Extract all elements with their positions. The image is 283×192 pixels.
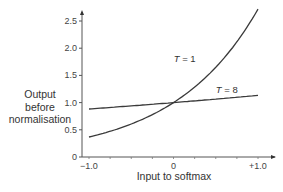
x-axis-label: Input to softmax xyxy=(137,170,212,182)
y-tick-label: 2.5 xyxy=(64,16,77,26)
y-tick-label: 0.5 xyxy=(64,125,77,135)
x-tick-label: −1.0 xyxy=(80,161,98,171)
y-tick-label: 1.5 xyxy=(64,70,77,80)
series-label-t8: T = 8 xyxy=(216,84,238,95)
x-tick-label: +1.0 xyxy=(249,161,267,171)
series-line-t8 xyxy=(89,95,258,109)
series-label-t1: T = 1 xyxy=(174,53,196,64)
y-axis-arrow-icon xyxy=(80,10,84,15)
y-tick-label: 0 xyxy=(72,152,77,162)
chart-canvas: 00.51.01.52.02.5−1.00+1.0Input to softma… xyxy=(0,0,283,192)
y-tick-label: 1.0 xyxy=(64,98,77,108)
series-line-t1 xyxy=(89,9,258,137)
y-tick-label: 2.0 xyxy=(64,43,77,53)
x-axis-arrow-icon xyxy=(271,155,276,159)
